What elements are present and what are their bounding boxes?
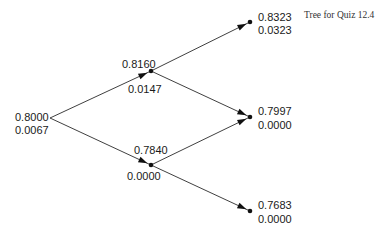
node-up-sub: 0.0147	[128, 83, 162, 95]
edge-up-uu	[151, 22, 250, 71]
arrowhead-icon	[237, 24, 246, 31]
tree-nodes	[149, 20, 253, 214]
node-ud-value: 0.7997	[258, 105, 292, 117]
node-dot-uu	[248, 20, 253, 25]
tree-edges	[50, 22, 250, 211]
node-dot-down	[149, 163, 154, 168]
arrowhead-icon	[237, 119, 246, 126]
edge-root-down	[50, 118, 151, 165]
node-uu-sub: 0.0323	[258, 24, 292, 36]
node-down-value: 0.7840	[134, 144, 168, 156]
node-dd-sub: 0.0000	[258, 213, 292, 225]
edge-down-dd	[151, 165, 250, 211]
node-root-value: 0.8000	[15, 111, 49, 123]
arrowhead-icon	[138, 157, 147, 164]
arrowhead-icon	[237, 203, 246, 210]
edge-up-ud	[151, 71, 250, 117]
edge-down-ud	[151, 117, 250, 165]
arrowhead-icon	[237, 109, 246, 116]
node-dot-ud	[248, 115, 253, 120]
node-uu-value: 0.8323	[258, 11, 292, 23]
binomial-tree-diagram: 0.8000 0.0067 0.8160 0.0147 0.7840 0.000…	[0, 0, 391, 235]
arrowhead-icon	[138, 73, 147, 80]
node-dd-value: 0.7683	[258, 199, 292, 211]
node-down-sub: 0.0000	[127, 170, 161, 182]
node-up-value: 0.8160	[122, 58, 156, 70]
node-ud-sub: 0.0000	[258, 119, 292, 131]
node-dot-dd	[248, 209, 253, 214]
diagram-caption: Tree for Quiz 12.4	[304, 10, 375, 20]
node-root-sub: 0.0067	[15, 124, 49, 136]
